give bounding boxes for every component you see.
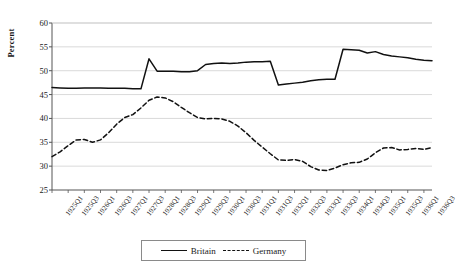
legend-label-germany: Germany: [253, 246, 287, 256]
legend-line-dashed-icon: [223, 250, 249, 251]
chart-legend: Britain Germany: [141, 240, 306, 261]
legend-label-britain: Britain: [191, 246, 216, 256]
legend-entry-germany: Germany: [223, 246, 287, 256]
series-line-britain: [52, 49, 432, 89]
series-line-germany: [52, 97, 432, 170]
legend-entry-britain: Britain: [161, 246, 216, 256]
legend-line-solid-icon: [161, 250, 187, 251]
